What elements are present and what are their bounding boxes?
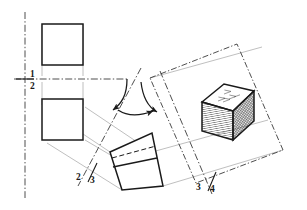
lower-square-view <box>42 99 83 140</box>
label-axis-3: 3 <box>90 175 95 185</box>
label-axis-3b: 3 <box>196 182 201 192</box>
upper-square-view <box>42 24 83 65</box>
label-axis-2: 2 <box>30 81 35 91</box>
technical-drawing-canvas: 1 2 2 3 3 4 <box>0 0 307 210</box>
drawing-svg: 1 2 2 3 3 4 <box>0 0 307 210</box>
label-axis-4: 4 <box>210 184 215 194</box>
label-axis-1: 1 <box>30 69 35 79</box>
label-axis-2b: 2 <box>76 172 81 182</box>
